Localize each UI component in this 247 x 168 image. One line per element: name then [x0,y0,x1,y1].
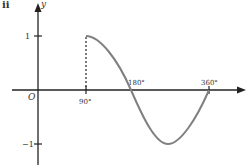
corner-label: ii [2,0,10,10]
sine-graph: ii y O 1 −1 90° 180° 360° [0,0,247,168]
x-tick-label-90: 90° [79,98,91,106]
y-axis-label: y [40,0,47,9]
x-tick-label-180: 180° [128,79,145,87]
x-axis-arrow-icon [237,87,246,94]
y-tick-label-1: 1 [25,32,30,41]
origin-label: O [28,92,36,102]
x-tick-label-360: 360° [201,79,218,87]
y-tick-label-neg1: −1 [22,140,34,149]
